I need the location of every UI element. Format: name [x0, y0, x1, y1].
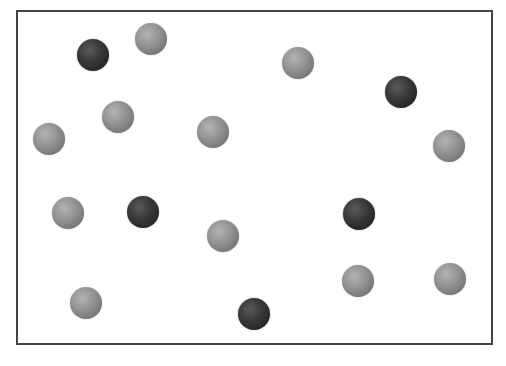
dark-sphere-icon [238, 298, 270, 330]
dark-sphere-icon [127, 196, 159, 228]
light-sphere-icon [52, 197, 84, 229]
light-sphere-icon [434, 263, 466, 295]
light-sphere-icon [282, 47, 314, 79]
light-sphere-icon [197, 116, 229, 148]
light-sphere-icon [342, 265, 374, 297]
light-sphere-icon [207, 220, 239, 252]
dark-sphere-icon [77, 39, 109, 71]
dark-sphere-icon [343, 198, 375, 230]
light-sphere-icon [70, 287, 102, 319]
diagram-canvas [0, 0, 506, 366]
light-sphere-icon [135, 23, 167, 55]
light-sphere-icon [33, 123, 65, 155]
light-sphere-icon [102, 101, 134, 133]
dark-sphere-icon [385, 76, 417, 108]
light-sphere-icon [433, 130, 465, 162]
